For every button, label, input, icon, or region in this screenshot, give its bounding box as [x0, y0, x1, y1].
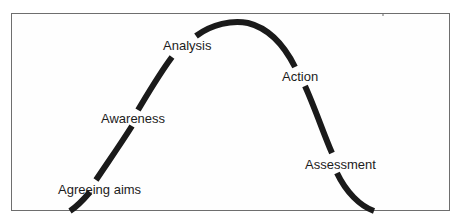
stage-label-action: Action — [282, 70, 318, 83]
curve-segment-rise-3 — [138, 57, 172, 110]
stage-label-assessment: Assessment — [305, 158, 376, 171]
stage-label-awareness: Awareness — [101, 112, 165, 125]
scan-speck — [382, 14, 384, 16]
curve-segment-fall-1 — [305, 86, 332, 153]
stage-label-analysis: Analysis — [163, 39, 211, 52]
curve-segment-fall-2 — [337, 173, 374, 211]
stage-label-agreeing-aims: Agreeing aims — [58, 183, 141, 196]
curve-segment-rise-2 — [96, 126, 132, 180]
